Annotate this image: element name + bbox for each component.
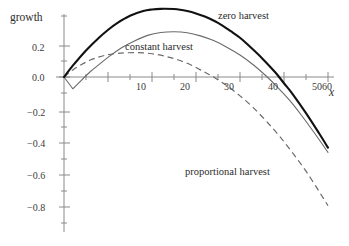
x-tick-label-50: 50 <box>312 81 322 92</box>
axes <box>56 14 334 232</box>
y-tick-label-0.2: 0.2 <box>32 42 45 53</box>
y-tick-label--0.2: −0.2 <box>27 107 45 118</box>
annotation-constant-harvest: constant harvest <box>125 41 193 52</box>
annotation-proportional-harvest: proportional harvest <box>185 166 270 177</box>
y-axis-title: growth <box>10 11 43 23</box>
x-tick-label-20: 20 <box>180 81 190 92</box>
x-tick-label-10: 10 <box>136 81 146 92</box>
annotation-zero-harvest: zero harvest <box>218 10 269 21</box>
y-tick-label--0.6: −0.6 <box>27 170 45 181</box>
x-tick-label-30: 30 <box>224 81 234 92</box>
plot-area <box>0 0 349 246</box>
x-tick-label-40: 40 <box>268 81 278 92</box>
y-tick-label--0.8: −0.8 <box>27 202 45 213</box>
y-tick-label-0.0: 0.0 <box>32 72 45 83</box>
curve-constant-harvest <box>64 32 328 153</box>
x-tick-label-60: 60 <box>322 81 332 92</box>
growth-curve-figure: growth x zero harvest constant harvest p… <box>0 0 349 246</box>
y-tick-label--0.4: −0.4 <box>27 138 45 149</box>
